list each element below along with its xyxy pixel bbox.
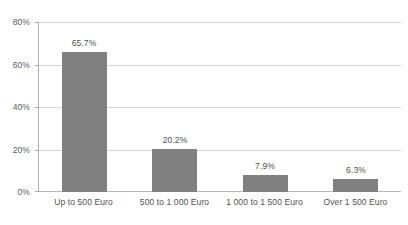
bar-chart: 0%20%40%60%80% 65.7%20.2%7.9%6.3% Up to … (0, 0, 408, 225)
bar (243, 175, 288, 192)
y-tick-label-0pct: 0% (18, 187, 31, 197)
y-tick-label-20pct: 20% (13, 145, 30, 155)
y-tick-label-40pct: 40% (13, 102, 30, 112)
category-label: 500 to 1 000 Euro (129, 197, 220, 207)
y-axis-tick (35, 150, 39, 151)
gridline-80pct (39, 22, 401, 23)
x-axis-category-labels: Up to 500 Euro500 to 1 000 Euro1 000 to … (38, 197, 400, 213)
plot-area: 65.7%20.2%7.9%6.3% (38, 22, 400, 192)
y-axis-tick-labels: 0%20%40%60%80% (0, 22, 34, 192)
category-label: 1 000 to 1 500 Euro (219, 197, 310, 207)
y-axis-tick (35, 191, 39, 192)
y-tick-label-80pct: 80% (13, 17, 30, 27)
bar (62, 52, 107, 192)
bar (333, 179, 378, 192)
y-axis-tick (35, 65, 39, 66)
clipped-title-remnant (6, 0, 336, 3)
y-axis-tick (35, 22, 39, 23)
y-axis-tick (35, 107, 39, 108)
bar-value-label: 20.2% (135, 135, 215, 145)
y-tick-label-60pct: 60% (13, 60, 30, 70)
bar (152, 149, 197, 192)
bar-value-label: 65.7% (44, 38, 124, 48)
bar-value-label: 6.3% (316, 165, 396, 175)
category-label: Over 1 500 Euro (310, 197, 401, 207)
bar-value-label: 7.9% (225, 161, 305, 171)
category-label: Up to 500 Euro (38, 197, 129, 207)
